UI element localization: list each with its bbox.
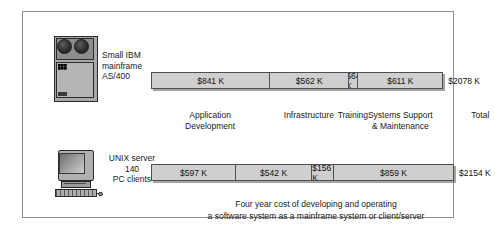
bar-total-unix: $2154 K (459, 168, 491, 178)
bar-segment-training: $64 K (348, 72, 357, 89)
tape-reel-right-icon (74, 39, 89, 54)
mainframe-indicator-lights (58, 64, 67, 70)
pc-workstation-icon (55, 150, 103, 202)
bar-segment-training: $156 K (311, 164, 333, 181)
monitor-screen (59, 153, 85, 174)
system-unit-slot (64, 183, 86, 184)
stacked-bar-unix: $597 K $542 K $156 K $859 K (151, 164, 454, 181)
column-headers: Application Development Infrastructure T… (151, 110, 481, 138)
bar-segment-app-development: $841 K (151, 72, 269, 89)
header-total: Total (460, 110, 495, 121)
mouse-icon (98, 192, 103, 196)
mainframe-icon (54, 36, 98, 102)
figure-frame: Small IBM mainframe AS/400 UNIX server 1… (22, 11, 454, 218)
tape-reel-left-icon (57, 39, 72, 54)
bar-segment-systems-support: $611 K (357, 72, 443, 89)
bar-total-mainframe: $2078 K (448, 76, 480, 86)
bar-segment-infrastructure: $542 K (235, 164, 311, 181)
bar-segment-app-development: $597 K (151, 164, 235, 181)
header-systems-support: Systems Support & Maintenance (344, 110, 456, 131)
bar-segment-infrastructure: $562 K (269, 72, 348, 89)
mainframe-drive-slot (58, 92, 67, 96)
stacked-bar-mainframe: $841 K $562 K $64 K $611 K (151, 72, 443, 89)
keyboard-icon (55, 189, 97, 197)
figure-caption: Four year cost of developing and operati… (171, 198, 461, 222)
bar-segment-systems-support: $859 K (333, 164, 454, 181)
